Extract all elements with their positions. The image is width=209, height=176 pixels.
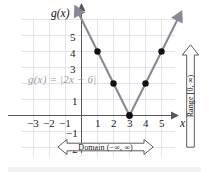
- data-point: [158, 48, 164, 54]
- range-annotation-label: Range [0, ∞): [181, 44, 200, 148]
- y-tick-5: 5: [70, 32, 76, 43]
- data-points: [21, 19, 175, 157]
- x-tick-1: 1: [95, 118, 101, 129]
- y-tick-4: 4: [70, 48, 76, 59]
- y-tick-1: 1: [72, 96, 78, 107]
- data-point: [94, 48, 100, 54]
- x-tick--2: −2: [43, 118, 55, 129]
- x-tick-5: 5: [159, 118, 165, 129]
- plot-area: [21, 19, 175, 157]
- domain-annotation-label: Domain (−∞, ∞): [57, 138, 154, 156]
- absolute-value-function-figure: g(x) x −3 −2 −1 1 2 3 4 5 5 4 3 1 −1 −2 …: [0, 0, 209, 176]
- function-equation-label: g(x) = |2x − 6|: [28, 74, 96, 85]
- x-tick-2: 2: [111, 118, 117, 129]
- data-point: [142, 80, 148, 86]
- y-axis-label: g(x): [51, 8, 70, 20]
- footer-divider: [8, 167, 201, 172]
- x-tick-4: 4: [143, 118, 149, 129]
- range-annotation: Range [0, ∞): [181, 44, 200, 148]
- x-tick-3: 3: [127, 118, 133, 129]
- domain-annotation: Domain (−∞, ∞): [57, 138, 154, 156]
- data-point: [110, 80, 116, 86]
- x-tick--3: −3: [27, 118, 39, 129]
